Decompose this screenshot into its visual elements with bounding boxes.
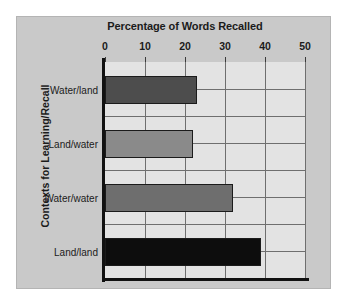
x-tick-mark xyxy=(265,57,266,62)
y-gridline xyxy=(105,170,305,171)
x-axis-spine xyxy=(102,278,309,281)
x-tick-mark xyxy=(225,57,226,62)
y-gridline xyxy=(105,116,305,117)
chart-title: Percentage of Words Recalled xyxy=(60,20,310,32)
x-axis-tick-labels: 01020304050 xyxy=(0,40,349,54)
x-tick-label: 30 xyxy=(210,40,240,52)
x-tick-mark xyxy=(145,57,146,62)
y-axis-spine xyxy=(102,58,105,282)
bar-land-water xyxy=(105,130,193,158)
x-tick-mark xyxy=(185,57,186,62)
x-tick-mark xyxy=(305,57,306,62)
chart-figure: Percentage of Words Recalled Contexts fo… xyxy=(0,0,349,305)
x-tick-label: 10 xyxy=(130,40,160,52)
x-tick-label: 40 xyxy=(250,40,280,52)
x-tick-label: 50 xyxy=(290,40,320,52)
bar-water-land xyxy=(105,76,197,104)
x-tick-label: 0 xyxy=(90,40,120,52)
x-tick-label: 20 xyxy=(170,40,200,52)
bar-water-water xyxy=(105,184,233,212)
bar-land-land xyxy=(105,238,261,266)
y-axis-title: Contexts for Learning/Recall xyxy=(39,56,51,256)
x-tick-mark xyxy=(105,57,106,62)
x-gridline xyxy=(305,62,306,278)
y-gridline xyxy=(105,224,305,225)
plot-area xyxy=(105,62,305,278)
